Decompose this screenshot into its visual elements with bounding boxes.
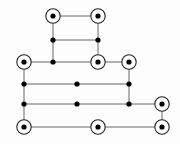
graph-node-dot[interactable]: [126, 81, 131, 86]
node-ring-center-dot: [95, 59, 100, 64]
node-ring-center-dot: [21, 59, 26, 64]
graph-node-dot[interactable]: [21, 81, 26, 86]
graph-node-ring[interactable]: [155, 97, 169, 111]
graph-node-ring[interactable]: [17, 55, 31, 69]
graph-node-ring[interactable]: [91, 55, 105, 69]
graph-node-ring[interactable]: [17, 120, 31, 134]
node-solid-dot: [126, 81, 131, 86]
graph-node-ring[interactable]: [91, 120, 105, 134]
node-solid-dot: [74, 101, 79, 106]
node-layer: [17, 9, 169, 134]
graph-node-dot[interactable]: [126, 101, 131, 106]
graph-node-dot[interactable]: [50, 59, 55, 64]
node-solid-dot: [126, 101, 131, 106]
node-link-graph: [0, 0, 180, 144]
graph-node-ring[interactable]: [155, 120, 169, 134]
node-ring-center-dot: [159, 124, 164, 129]
graph-node-dot[interactable]: [95, 37, 100, 42]
graph-node-dot[interactable]: [21, 101, 26, 106]
node-solid-dot: [50, 37, 55, 42]
graph-node-ring[interactable]: [46, 9, 60, 23]
node-ring-center-dot: [21, 124, 26, 129]
node-ring-center-dot: [159, 101, 164, 106]
node-ring-center-dot: [95, 124, 100, 129]
graph-node-dot[interactable]: [50, 37, 55, 42]
node-solid-dot: [21, 81, 26, 86]
node-solid-dot: [50, 59, 55, 64]
node-ring-center-dot: [95, 13, 100, 18]
graph-node-dot[interactable]: [74, 81, 79, 86]
graph-node-ring[interactable]: [122, 55, 136, 69]
edge-layer: [24, 16, 162, 127]
node-solid-dot: [95, 37, 100, 42]
diagram-canvas: [0, 0, 180, 144]
node-solid-dot: [74, 81, 79, 86]
node-ring-center-dot: [126, 59, 131, 64]
graph-node-dot[interactable]: [74, 101, 79, 106]
node-solid-dot: [21, 101, 26, 106]
node-ring-center-dot: [50, 13, 55, 18]
graph-node-ring[interactable]: [91, 9, 105, 23]
